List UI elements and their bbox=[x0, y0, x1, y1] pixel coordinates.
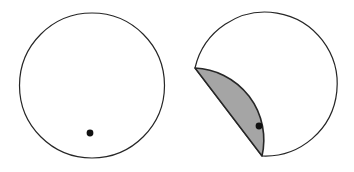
marked-point-left bbox=[87, 130, 94, 137]
circle-fold-diagram bbox=[0, 0, 354, 172]
figure-root bbox=[0, 0, 354, 172]
marked-point-right bbox=[256, 123, 263, 130]
